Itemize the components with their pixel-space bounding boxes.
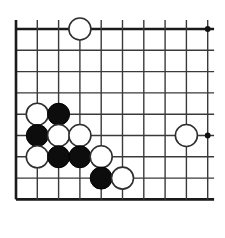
- stone-black[interactable]: [26, 125, 48, 147]
- stone-white[interactable]: [48, 125, 70, 147]
- star-point: [205, 26, 211, 32]
- stone-black[interactable]: [69, 146, 91, 168]
- stone-white[interactable]: [90, 146, 112, 168]
- stone-black[interactable]: [90, 167, 112, 189]
- goban-canvas[interactable]: [0, 0, 225, 238]
- stone-black[interactable]: [48, 103, 70, 125]
- stone-white[interactable]: [26, 103, 48, 125]
- stones: [26, 18, 197, 189]
- stone-white[interactable]: [112, 167, 134, 189]
- stone-white[interactable]: [69, 18, 91, 40]
- stone-black[interactable]: [48, 146, 70, 168]
- stone-white[interactable]: [69, 125, 91, 147]
- go-board-diagram: [0, 0, 225, 238]
- stone-white[interactable]: [175, 125, 197, 147]
- stone-white[interactable]: [26, 146, 48, 168]
- star-point: [205, 133, 211, 139]
